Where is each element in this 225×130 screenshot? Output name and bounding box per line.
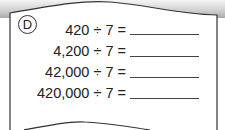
equation-2: 4,200 ÷ 7 = <box>53 43 126 59</box>
answer-blank-4[interactable] <box>130 98 199 99</box>
answer-blank-1[interactable] <box>130 34 199 35</box>
answer-blank-2[interactable] <box>130 56 199 57</box>
equation-4: 420,000 ÷ 7 = <box>37 85 126 101</box>
equation-3: 42,000 ÷ 7 = <box>45 64 126 80</box>
problem-label: D <box>18 15 37 34</box>
equation-1: 420 ÷ 7 = <box>65 22 126 38</box>
answer-blank-3[interactable] <box>130 77 199 78</box>
